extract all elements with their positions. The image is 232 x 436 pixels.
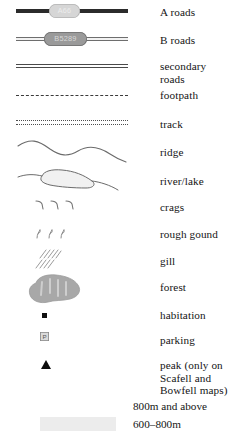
track-symbol bbox=[16, 120, 128, 128]
legend-label-habitation: habitation bbox=[160, 309, 232, 322]
legend-label-ridge: ridge bbox=[160, 146, 232, 159]
b-road-badge: B5289 bbox=[44, 32, 87, 46]
peak-symbol bbox=[41, 360, 51, 369]
b-road-badge-text: B5289 bbox=[44, 32, 87, 46]
rough-ground-symbol bbox=[34, 227, 84, 243]
b-road-symbol: B5289 bbox=[16, 32, 128, 46]
map-legend: A66 A roads B5289 B roads secondary road… bbox=[0, 0, 232, 436]
elevation-swatch-800 bbox=[40, 399, 116, 413]
forest-symbol bbox=[26, 273, 84, 305]
a-road-badge-text: A66 bbox=[49, 4, 80, 18]
parking-icon-letter: P bbox=[40, 332, 49, 341]
track-dotted-line-lower bbox=[16, 124, 128, 125]
river-lake-symbol bbox=[16, 166, 128, 196]
elevation-label-600: 600–800m bbox=[133, 418, 181, 431]
a-road-symbol: A66 bbox=[16, 4, 128, 18]
legend-label-gill: gill bbox=[160, 255, 232, 268]
gill-symbol bbox=[34, 249, 78, 275]
secondary-road-line-upper bbox=[16, 64, 128, 65]
secondary-road-symbol bbox=[16, 63, 128, 71]
parking-symbol: P bbox=[40, 332, 49, 341]
legend-label-parking: parking bbox=[160, 334, 232, 347]
legend-label-rough-ground: rough gound bbox=[160, 228, 232, 241]
track-dotted-line-upper bbox=[16, 120, 128, 121]
legend-label-peak: peak (only on Scafell and Bowfell maps) bbox=[160, 359, 232, 397]
legend-label-track: track bbox=[160, 118, 232, 131]
legend-label-crags: crags bbox=[160, 201, 232, 214]
secondary-road-line-lower bbox=[16, 67, 128, 68]
legend-label-forest: forest bbox=[160, 281, 232, 294]
legend-label-footpath: footpath bbox=[160, 89, 232, 102]
habitation-symbol bbox=[42, 313, 47, 318]
legend-label-secondary-roads: secondary roads bbox=[160, 60, 232, 85]
elevation-label-800: 800m and above bbox=[133, 400, 207, 413]
footpath-dashed-line bbox=[16, 95, 128, 96]
footpath-symbol bbox=[16, 94, 128, 98]
legend-label-b-roads: B roads bbox=[160, 34, 232, 47]
legend-label-a-roads: A roads bbox=[160, 6, 232, 19]
ridge-symbol bbox=[16, 138, 128, 164]
elevation-swatch-600 bbox=[40, 417, 116, 431]
crags-symbol bbox=[34, 200, 84, 216]
a-road-badge: A66 bbox=[49, 4, 80, 18]
legend-label-river-lake: river/lake bbox=[160, 175, 232, 188]
